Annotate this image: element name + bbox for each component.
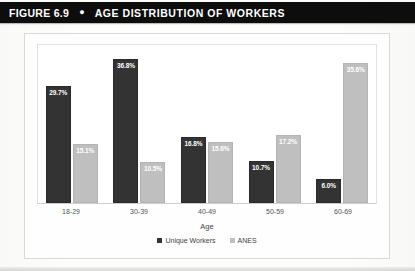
- legend-item: ANES: [230, 237, 257, 244]
- legend-swatch-icon: [230, 238, 235, 243]
- bar: 16.8%: [181, 137, 206, 203]
- bar: 6.0%: [316, 179, 341, 203]
- x-axis-tick-label: 18-29: [37, 204, 105, 220]
- chart-legend: Unique WorkersANES: [37, 237, 377, 244]
- scan-edge-shadow: [0, 267, 415, 271]
- figure-title-bar: FIGURE 6.9 ● AGE DISTRIBUTION OF WORKERS: [0, 2, 415, 23]
- bar-value-label: 16.8%: [185, 140, 203, 147]
- x-axis-tick-label: 30-39: [105, 204, 173, 220]
- bar-group: 10.7%17.2%: [241, 46, 309, 203]
- bar-value-label: 36.8%: [117, 62, 135, 69]
- bar: 29.7%: [46, 86, 71, 203]
- bar-value-label: 15.1%: [76, 147, 94, 154]
- bar-value-label: 35.6%: [347, 66, 365, 73]
- bar-group: 6.0%35.6%: [308, 46, 376, 203]
- scanned-page: FIGURE 6.9 ● AGE DISTRIBUTION OF WORKERS…: [0, 0, 415, 271]
- bar: 10.5%: [140, 162, 165, 203]
- x-axis-title: Age: [37, 222, 377, 231]
- bar-value-label: 6.0%: [321, 182, 335, 189]
- legend-label: ANES: [238, 237, 257, 244]
- chart-frame: 29.7%15.1%36.8%10.5%16.8%15.6%10.7%17.2%…: [24, 33, 390, 259]
- bar: 35.6%: [343, 63, 368, 203]
- bar: 36.8%: [113, 59, 138, 203]
- x-axis-tick-label: 40-49: [173, 204, 241, 220]
- legend-item: Unique Workers: [157, 237, 215, 244]
- bar-group: 36.8%10.5%: [106, 46, 174, 203]
- legend-swatch-icon: [157, 238, 162, 243]
- bar-value-label: 29.7%: [49, 89, 67, 96]
- x-axis-tick-label: 60-69: [309, 204, 377, 220]
- bar-value-label: 10.7%: [252, 164, 270, 171]
- plot-area: 29.7%15.1%36.8%10.5%16.8%15.6%10.7%17.2%…: [37, 44, 377, 204]
- bar: 15.1%: [73, 144, 98, 203]
- bar-value-label: 15.6%: [212, 145, 230, 152]
- x-axis-tick-label: 50-59: [241, 204, 309, 220]
- figure-title-text: AGE DISTRIBUTION OF WORKERS: [95, 7, 285, 19]
- bar-value-label: 17.2%: [279, 138, 297, 145]
- figure-number-label: FIGURE 6.9: [9, 7, 69, 19]
- x-axis-tick-labels: 18-2930-3940-4950-5960-69: [37, 204, 377, 220]
- bar-groups: 29.7%15.1%36.8%10.5%16.8%15.6%10.7%17.2%…: [38, 46, 376, 203]
- bar-group: 16.8%15.6%: [173, 46, 241, 203]
- bullet-separator-icon: ●: [79, 8, 84, 17]
- bar: 15.6%: [208, 142, 233, 203]
- legend-label: Unique Workers: [165, 237, 215, 244]
- bar-value-label: 10.5%: [144, 165, 162, 172]
- bar-group: 29.7%15.1%: [38, 46, 106, 203]
- bar: 17.2%: [276, 135, 301, 203]
- bar: 10.7%: [249, 161, 274, 203]
